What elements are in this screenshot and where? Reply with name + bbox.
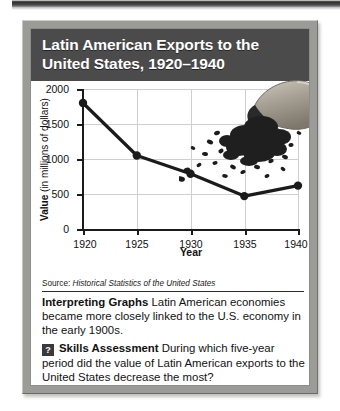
x-tick-1930 [191,229,193,235]
scan-edge-shadow [12,7,340,10]
y-tick-label-1500: 1500 [46,118,69,130]
plot-wrapper: 2000 1500 1000 500 0 1920 1925 1930 1935… [31,81,309,273]
skills-assessment-heading: Skills Assessment [59,342,159,354]
y-tick-label-500: 500 [51,188,69,200]
body-text-block: Interpreting Graphs Latin American econo… [42,295,308,385]
y-tick-label-1000: 1000 [46,153,69,165]
x-axis-title: Year [83,246,299,258]
x-tick-1920 [83,229,85,235]
skills-assessment-paragraph: ?Skills Assessment During which five-yea… [42,341,308,384]
y-tick-label-2000: 2000 [46,83,69,95]
data-series-line [83,89,299,229]
scan-edge-bar [12,0,340,7]
chart-title-banner: Latin American Exports to the United Sta… [31,29,309,81]
chart-source-note: Source: Historical Statistics of the Uni… [42,279,304,288]
x-tick-1925 [137,229,139,235]
data-point-1930 [186,170,194,178]
question-badge-icon: ? [42,344,54,356]
data-point-1935 [240,192,248,200]
source-divider-rule [42,291,304,292]
plot-region: 2000 1500 1000 500 0 1920 1925 1930 1935… [83,89,299,229]
y-tick-label-0: 0 [63,223,69,235]
chart-source-text: Historical Statistics of the United Stat… [70,279,215,288]
data-point-1925 [133,151,141,159]
chart-title-line-1: Latin American Exports to the [42,35,299,54]
chart-area: Value (in millions of dollars) [31,81,309,273]
data-point-1920 [79,99,87,107]
feature-box-inner: Latin American Exports to the United Sta… [30,28,310,386]
chart-source-label: Source: [42,279,70,288]
x-tick-1935 [245,229,247,235]
feature-box-frame: Latin American Exports to the United Sta… [22,20,318,394]
x-tick-1940 [298,229,300,235]
data-point-1940 [294,181,302,189]
interpreting-graphs-paragraph: Interpreting Graphs Latin American econo… [42,295,308,338]
chart-title-line-2: United States, 1920–1940 [42,54,299,73]
interpreting-graphs-heading: Interpreting Graphs [42,296,148,308]
